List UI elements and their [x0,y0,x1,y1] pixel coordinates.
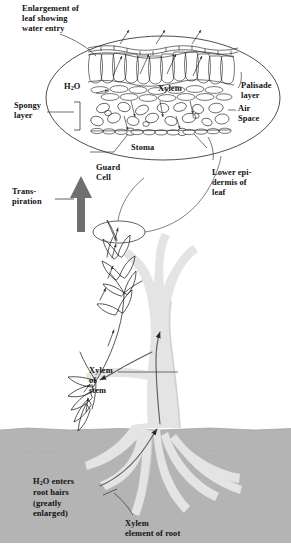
transpiration-label: Trans- piration [12,187,42,207]
figure-title: Enlargement of leaf showing water entry [22,4,79,35]
xylem-of-stem-label: Xylem of stem [89,366,113,397]
guard-cell-label: Guard Cell [96,163,120,183]
spongy-layer-label: Spongy layer [14,101,41,121]
air-space-label: Air Space [238,104,259,124]
xylem-leaf-label: Xylem [158,84,182,94]
magnifier-connector [118,156,221,232]
transpiration-arrow [70,176,92,232]
stoma-label: Stoma [131,143,154,153]
sampled-leaf-marker [93,221,145,243]
xylem-of-root-label: Xylem element of root [125,519,180,539]
figure-canvas: Enlargement of leaf showing water entry … [0,0,291,555]
lower-epidermis-label: Lower epi- dermis of leaf [212,168,252,199]
root-hairs-label: H2O enters root hairs (greatly enlarged) [33,477,74,519]
palisade-layer-label: Palisade layer [241,81,272,101]
h2o-leaf-label: H2O [64,82,80,93]
